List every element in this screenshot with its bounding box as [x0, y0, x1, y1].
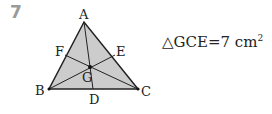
vertex-dot-c [137, 88, 140, 91]
centroid-dot [88, 65, 92, 69]
label-d: D [89, 92, 99, 107]
label-f: F [55, 44, 64, 59]
area-value: 7 cm [221, 33, 258, 51]
label-c: C [141, 84, 151, 99]
area-equation: △GCE=7 cm2 [162, 33, 263, 51]
label-e: E [116, 44, 126, 59]
triangle-figure: A B C D E F G [0, 0, 272, 114]
area-exponent: 2 [257, 33, 263, 43]
triangle-name: GCE [174, 33, 208, 51]
label-a: A [78, 7, 89, 22]
triangle-symbol: △ [162, 33, 174, 51]
label-b: B [35, 83, 45, 98]
equals-sign: = [208, 33, 221, 51]
label-g: G [82, 70, 92, 85]
vertex-dot-b [48, 88, 51, 91]
